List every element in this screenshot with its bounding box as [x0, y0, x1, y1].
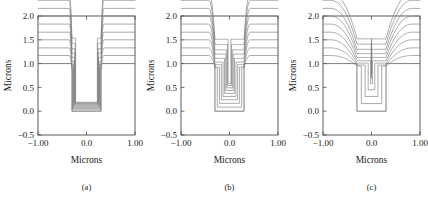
plot-frame	[38, 16, 135, 135]
deposition-contour	[181, 32, 278, 96]
y-tick-label: 0.0	[23, 106, 35, 116]
x-tick-label: 1.00	[127, 138, 143, 148]
y-tick-label: 1.5	[308, 35, 320, 45]
deposition-contour	[181, 0, 278, 85]
x-tick-label: 0.0	[224, 138, 236, 148]
x-axis-title: Microns	[356, 155, 388, 165]
y-tick-label: 1.0	[23, 59, 35, 69]
deposition-contour	[38, 16, 135, 104]
panel-a-plot: −0.50.00.51.01.52.0−1.000.01.00MicronsMi…	[0, 0, 143, 203]
y-tick-label: 2.0	[308, 11, 320, 21]
panel-caption: (a)	[82, 182, 92, 192]
x-axis-title: Microns	[214, 155, 246, 165]
deposition-contour	[181, 16, 278, 90]
deposition-contour	[38, 32, 135, 106]
y-tick-label: 0.5	[23, 83, 35, 93]
deposition-contour	[38, 0, 135, 102]
y-tick-label: 1.0	[308, 59, 320, 69]
y-axis-title: Microns	[3, 59, 13, 91]
panel-c: −0.50.00.51.01.52.0−1.000.01.00MicronsMi…	[285, 0, 428, 203]
x-tick-label: −1.00	[28, 138, 49, 148]
y-tick-label: 0.0	[308, 106, 320, 116]
deposition-contour	[38, 8, 135, 103]
y-tick-label: 0.5	[166, 83, 178, 93]
y-tick-label: 1.5	[23, 35, 35, 45]
x-tick-label: 0.0	[366, 138, 378, 148]
x-tick-label: −1.00	[313, 138, 334, 148]
panel-b-plot: −0.50.00.51.01.52.0−1.000.01.00MicronsMi…	[143, 0, 286, 203]
y-tick-label: 1.0	[166, 59, 178, 69]
panel-b: −0.50.00.51.01.52.0−1.000.01.00MicronsMi…	[143, 0, 286, 203]
y-tick-label: 1.5	[166, 35, 178, 45]
y-tick-label: 2.0	[23, 11, 35, 21]
x-tick-label: 1.00	[270, 138, 286, 148]
y-tick-label: 0.0	[166, 106, 178, 116]
x-tick-label: 1.00	[412, 138, 428, 148]
substrate-profile	[181, 64, 278, 112]
y-axis-title: Microns	[288, 59, 298, 91]
x-tick-label: 0.0	[81, 138, 93, 148]
substrate-profile	[38, 64, 135, 112]
y-tick-label: 2.0	[166, 11, 178, 21]
deposition-contour	[181, 48, 278, 103]
deposition-contour	[181, 0, 278, 83]
deposition-contour	[38, 48, 135, 109]
panel-a: −0.50.00.51.01.52.0−1.000.01.00MicronsMi…	[0, 0, 143, 203]
panel-caption: (b)	[225, 182, 235, 192]
deposition-contour-figure: −0.50.00.51.01.52.0−1.000.01.00MicronsMi…	[0, 0, 428, 203]
deposition-contour	[181, 24, 278, 93]
x-axis-title: Microns	[71, 155, 103, 165]
panel-caption: (c)	[367, 182, 377, 192]
deposition-contour	[38, 24, 135, 105]
plot-frame	[181, 16, 278, 135]
y-axis-title: Microns	[146, 59, 156, 91]
deposition-contour	[38, 40, 135, 108]
y-tick-label: 0.5	[308, 83, 320, 93]
panel-c-plot: −0.50.00.51.01.52.0−1.000.01.00MicronsMi…	[285, 0, 428, 203]
deposition-contour	[323, 0, 420, 64]
x-tick-label: −1.00	[171, 138, 192, 148]
